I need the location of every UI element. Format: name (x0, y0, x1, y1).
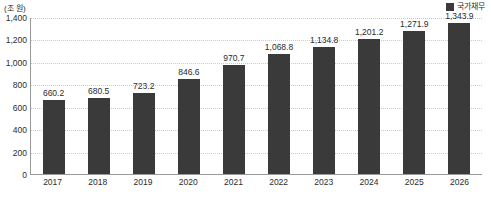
bar[interactable]: 1,068.8 (268, 54, 290, 174)
x-axis: 2017201820192020202120222023202420252026 (30, 177, 482, 187)
x-axis-tick-label: 2021 (211, 177, 256, 187)
bar-slot: 723.2 (121, 18, 166, 174)
bar-value-label: 1,343.9 (445, 11, 473, 21)
y-axis-tick-label: 1,200 (6, 35, 27, 45)
bar-value-label: 660.2 (43, 88, 64, 98)
bar[interactable]: 1,134.8 (313, 47, 335, 174)
chart-legend: 국가채무 (446, 3, 485, 11)
bar-value-label: 1,068.8 (265, 42, 293, 52)
plot-area: 1,4001,2001,0008006004002000 660.2680.57… (30, 18, 482, 175)
x-axis-tick-label: 2025 (392, 177, 437, 187)
y-axis-tick-label: 800 (13, 80, 27, 90)
x-axis-tick-label: 2019 (120, 177, 165, 187)
bar[interactable]: 846.6 (178, 79, 200, 174)
bar[interactable]: 970.7 (223, 65, 245, 174)
bar-slot: 1,271.9 (392, 18, 437, 174)
bar-slot: 1,068.8 (256, 18, 301, 174)
y-axis-tick-label: 1,400 (6, 13, 27, 23)
bar[interactable]: 1,343.9 (448, 23, 470, 174)
bar[interactable]: 680.5 (88, 98, 110, 174)
bar-slot: 1,201.2 (347, 18, 392, 174)
bar-value-label: 1,134.8 (310, 35, 338, 45)
y-axis-tick-label: 400 (13, 125, 27, 135)
y-axis-tick-label: 1,000 (6, 58, 27, 68)
bar-value-label: 723.2 (133, 81, 154, 91)
x-axis-tick-label: 2018 (75, 177, 120, 187)
bar[interactable]: 723.2 (133, 93, 155, 174)
x-axis-tick-label: 2017 (30, 177, 75, 187)
bar-slot: 660.2 (31, 18, 76, 174)
y-axis-tick-label: 600 (13, 103, 27, 113)
y-axis-tick-label: 200 (13, 148, 27, 158)
bar[interactable]: 1,201.2 (358, 39, 380, 174)
bar-value-label: 1,271.9 (400, 19, 428, 29)
bar-value-label: 680.5 (88, 86, 109, 96)
bar-slot: 1,134.8 (302, 18, 347, 174)
bar-value-label: 1,201.2 (355, 27, 383, 37)
bar-value-label: 970.7 (223, 53, 244, 63)
bar[interactable]: 1,271.9 (403, 31, 425, 174)
bar-slot: 1,343.9 (437, 18, 482, 174)
bar-series: 660.2680.5723.2846.6970.71,068.81,134.81… (31, 18, 482, 174)
x-axis-tick-label: 2023 (301, 177, 346, 187)
bar-slot: 680.5 (76, 18, 121, 174)
bar-slot: 846.6 (166, 18, 211, 174)
legend-swatch-icon (446, 3, 454, 11)
legend-item-label: 국가채무 (457, 3, 485, 11)
x-axis-tick-label: 2020 (166, 177, 211, 187)
x-axis-tick-label: 2026 (437, 177, 482, 187)
bar-value-label: 846.6 (178, 67, 199, 77)
bar-slot: 970.7 (211, 18, 256, 174)
y-axis-unit-label: (조 원) (4, 2, 26, 13)
x-axis-tick-label: 2024 (346, 177, 391, 187)
y-axis-tick-label: 0 (22, 170, 27, 180)
x-axis-tick-label: 2022 (256, 177, 301, 187)
bar[interactable]: 660.2 (43, 100, 65, 174)
bar-chart: (조 원) 국가채무 1,4001,2001,0008006004002000 … (0, 0, 491, 212)
